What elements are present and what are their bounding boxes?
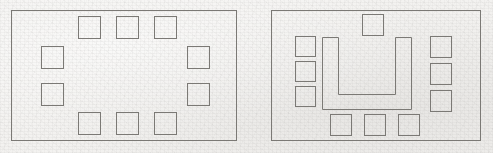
u-shaped-table-path <box>323 38 412 110</box>
hollow-square-layout-seat-top-1 <box>78 16 101 39</box>
hollow-square-layout-seat-left-2 <box>41 83 64 106</box>
u-shape-layout-seat-bottom-3 <box>398 114 420 136</box>
u-shape-layout-seat-bottom-1 <box>330 114 352 136</box>
u-shape-layout-seat-left-3 <box>295 86 316 107</box>
u-shaped-table <box>322 37 411 109</box>
u-shape-layout-seat-right-3 <box>430 90 452 112</box>
u-shape-layout-seat-right-2 <box>430 63 452 85</box>
u-shape-layout-seat-left-1 <box>295 36 316 57</box>
hollow-square-layout-seat-bottom-1 <box>78 112 101 135</box>
hollow-square-layout-seat-bottom-3 <box>154 112 177 135</box>
hollow-square-layout-seat-right-2 <box>187 83 210 106</box>
diagram-stage <box>0 0 493 153</box>
u-shape-layout-seat-bottom-2 <box>364 114 386 136</box>
u-shape-layout-seat-top-1 <box>362 14 384 36</box>
hollow-square-layout-seat-top-2 <box>116 16 139 39</box>
hollow-square-layout-seat-right-1 <box>187 46 210 69</box>
u-shape-layout-seat-left-2 <box>295 61 316 82</box>
u-shaped-table-outline <box>322 37 411 109</box>
hollow-square-layout-seat-left-1 <box>41 46 64 69</box>
hollow-square-layout-seat-bottom-2 <box>116 112 139 135</box>
hollow-square-layout-seat-top-3 <box>154 16 177 39</box>
u-shape-layout-seat-right-1 <box>430 36 452 58</box>
